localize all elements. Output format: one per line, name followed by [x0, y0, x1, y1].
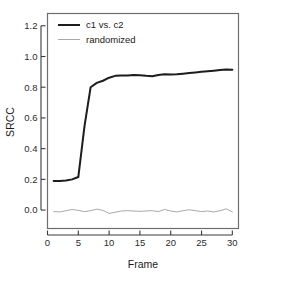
y-tick-label: 1.2 [24, 20, 37, 31]
srcc-line-chart: 0.00.20.40.60.81.01.2 051015202530 c1 vs… [0, 0, 281, 281]
x-tick-label: 30 [227, 237, 238, 248]
x-tick-label: 20 [165, 237, 176, 248]
y-tick-label: 0.0 [24, 204, 37, 215]
legend-label: randomized [86, 34, 136, 45]
x-tick-label: 5 [76, 237, 81, 248]
x-tick-label: 0 [45, 237, 50, 248]
y-tick-label: 0.2 [24, 174, 37, 185]
x-axis-title: Frame [128, 258, 158, 270]
chart-figure: 0.00.20.40.60.81.01.2 051015202530 c1 vs… [0, 0, 281, 281]
x-tick-label: 10 [104, 237, 115, 248]
x-tick-label: 25 [196, 237, 207, 248]
y-tick-label: 0.6 [24, 112, 37, 123]
x-tick-label: 15 [135, 237, 146, 248]
y-axis-title: SRCC [4, 107, 16, 137]
y-tick-label: 1.0 [24, 51, 37, 62]
legend-label: c1 vs. c2 [86, 19, 124, 30]
y-tick-label: 0.4 [24, 143, 37, 154]
y-tick-label: 0.8 [24, 82, 37, 93]
